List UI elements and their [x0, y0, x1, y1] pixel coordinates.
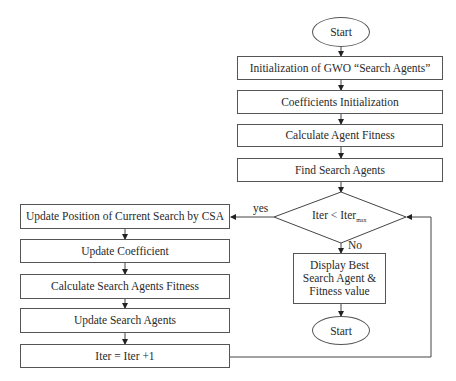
step-label: Display Best Search Agent & Fitness valu…	[294, 259, 385, 298]
condition-subscript: max	[356, 217, 366, 223]
step-label: Calculate Search Agents Fitness	[51, 280, 199, 293]
display-result-step: Display Best Search Agent & Fitness valu…	[293, 253, 386, 304]
step-label: Coefficients Initialization	[281, 96, 399, 109]
start-label: Start	[330, 26, 352, 38]
step-label: Update Position of Current Search by CSA	[26, 210, 224, 223]
condition-text: Iter < Iter	[312, 209, 356, 221]
init-search-agents-step: Initialization of GWO “Search Agents”	[237, 56, 443, 80]
step-label: Iter = Iter +1	[95, 350, 154, 363]
start-terminal: Start	[312, 17, 370, 47]
yes-label: yes	[253, 202, 268, 214]
calculate-agents-fitness-step: Calculate Search Agents Fitness	[20, 274, 230, 299]
decision-condition: Iter < Itermax	[312, 209, 367, 223]
update-coefficient-step: Update Coefficient	[20, 239, 230, 263]
step-label: Update Coefficient	[81, 245, 169, 258]
end-terminal: Start	[312, 316, 370, 345]
find-search-agents-step: Find Search Agents	[237, 158, 443, 182]
update-search-agents-step: Update Search Agents	[20, 308, 230, 333]
step-label: Calculate Agent Fitness	[285, 129, 394, 142]
step-label: Find Search Agents	[295, 164, 385, 177]
no-label: No	[348, 239, 362, 251]
calculate-fitness-step: Calculate Agent Fitness	[237, 124, 443, 147]
update-position-step: Update Position of Current Search by CSA	[20, 204, 230, 229]
step-label: Update Search Agents	[74, 314, 176, 327]
end-label: Start	[330, 325, 352, 337]
step-label: Initialization of GWO “Search Agents”	[250, 62, 431, 75]
increment-iter-step: Iter = Iter +1	[20, 344, 230, 368]
coefficients-init-step: Coefficients Initialization	[237, 90, 443, 114]
